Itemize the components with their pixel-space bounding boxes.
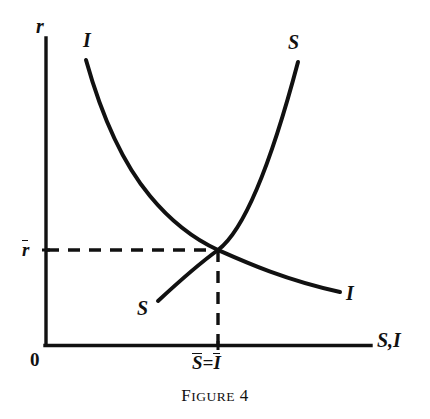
investment-curve bbox=[86, 60, 340, 292]
origin-label: 0 bbox=[30, 350, 40, 369]
i-bar-glyph: I bbox=[213, 352, 220, 372]
saving-curve-label-top: S bbox=[288, 32, 299, 52]
investment-curve-label-top: I bbox=[83, 30, 91, 50]
figure-caption-text: FIGURE 4 bbox=[181, 386, 248, 405]
equilibrium-quantity-label: S=I bbox=[192, 352, 221, 372]
y-axis-label: r bbox=[36, 16, 44, 36]
caption-word-rest: IGURE bbox=[191, 389, 235, 404]
saving-curve bbox=[158, 62, 298, 301]
equals-glyph: = bbox=[203, 352, 214, 373]
figure-container: r S,I 0 r S=I I I S S FIGURE 4 bbox=[0, 0, 430, 419]
caption-number: 4 bbox=[240, 386, 249, 405]
r-bar-glyph: r bbox=[22, 239, 29, 259]
figure-caption: FIGURE 4 bbox=[0, 386, 430, 406]
investment-curve-label-right: I bbox=[346, 283, 354, 303]
saving-curve-label-left: S bbox=[137, 298, 148, 318]
equilibrium-rate-label: r bbox=[22, 239, 29, 259]
s-bar-glyph: S bbox=[192, 352, 203, 372]
caption-lead-letter: F bbox=[181, 386, 191, 405]
x-axis-label: S,I bbox=[377, 330, 401, 350]
